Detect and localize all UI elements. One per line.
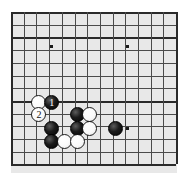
star-point-center-right — [126, 127, 129, 130]
star-point-upper-right — [126, 45, 129, 48]
grid-line-horizontal — [11, 164, 176, 166]
white-stone-i — [70, 134, 85, 149]
grid-line-vertical — [138, 12, 139, 164]
star-point-upper-left — [50, 45, 53, 48]
grid-line-vertical — [113, 12, 114, 164]
stone-move-number: 2 — [32, 108, 45, 121]
go-board-diagram: 12 — [0, 0, 189, 182]
grid-line-vertical — [100, 12, 101, 164]
grid-line-vertical — [176, 12, 178, 164]
white-stone-move-2: 2 — [31, 107, 46, 122]
grid-line-vertical — [163, 12, 164, 164]
grid-line-vertical — [151, 12, 152, 164]
grid-line-vertical — [11, 12, 13, 164]
grid-line-vertical — [125, 12, 126, 164]
black-stone-j — [108, 121, 123, 136]
grid-line-vertical — [36, 12, 37, 164]
grid-line-vertical — [24, 12, 25, 164]
grid-line-vertical — [87, 12, 88, 164]
black-stone-move-1: 1 — [44, 95, 59, 110]
stone-move-number: 1 — [45, 96, 58, 109]
